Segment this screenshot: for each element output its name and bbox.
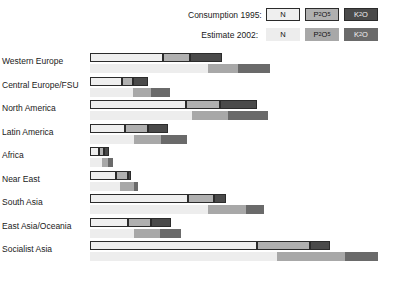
segment-k2o xyxy=(310,241,330,250)
segment-k2o xyxy=(160,229,181,238)
segment-k2o xyxy=(238,64,270,73)
bar-consumption-1995[interactable] xyxy=(90,147,109,156)
bar-estimate-2002[interactable] xyxy=(90,64,270,73)
bar-consumption-1995[interactable] xyxy=(90,124,168,133)
chart-row: Near East xyxy=(0,170,393,194)
segment-n xyxy=(90,205,208,214)
segment-n xyxy=(90,124,125,133)
bar-estimate-2002[interactable] xyxy=(90,252,378,261)
segment-p2o5 xyxy=(208,205,246,214)
category-label-western-europe: Western Europe xyxy=(2,56,88,66)
segment-k2o xyxy=(214,194,226,203)
segment-k2o xyxy=(345,252,378,261)
segment-n xyxy=(90,252,277,261)
chart-row: Latin America xyxy=(0,123,393,147)
segment-k2o xyxy=(246,205,264,214)
legend-row-label: Estimate 2002: xyxy=(188,30,266,40)
segment-p2o5 xyxy=(122,77,133,86)
segment-p2o5 xyxy=(192,111,228,120)
chart-row: East Asia/Oceania xyxy=(0,217,393,241)
chart-row: Western Europe xyxy=(0,52,393,76)
segment-n xyxy=(90,218,128,227)
bar-group xyxy=(90,99,393,123)
bar-consumption-1995[interactable] xyxy=(90,171,131,180)
segment-n xyxy=(90,135,134,144)
category-label-africa: Africa xyxy=(2,150,88,160)
segment-p2o5 xyxy=(125,124,148,133)
segment-n xyxy=(90,182,120,191)
segment-p2o5 xyxy=(257,241,310,250)
segment-p2o5 xyxy=(133,88,151,97)
fertilizer-consumption-chart: Consumption 1995:NP2O5K2OEstimate 2002:N… xyxy=(0,0,393,291)
category-label-south-asia: South Asia xyxy=(2,197,88,207)
segment-k2o xyxy=(148,124,168,133)
legend-swatch-n[interactable]: N xyxy=(266,8,300,21)
segment-k2o xyxy=(108,158,113,167)
bar-consumption-1995[interactable] xyxy=(90,77,148,86)
segment-n xyxy=(90,171,116,180)
bar-group xyxy=(90,52,393,76)
legend-swatch-n[interactable]: N xyxy=(266,28,300,41)
bar-consumption-1995[interactable] xyxy=(90,100,257,109)
bar-estimate-2002[interactable] xyxy=(90,182,138,191)
bar-estimate-2002[interactable] xyxy=(90,88,170,97)
bar-consumption-1995[interactable] xyxy=(90,194,226,203)
category-label-central-europe-fsu: Central Europe/FSU xyxy=(2,80,88,90)
segment-p2o5 xyxy=(163,53,190,62)
segment-p2o5 xyxy=(134,229,160,238)
legend-swatch-group: NP2O5K2O xyxy=(266,8,378,21)
chart-row: Africa xyxy=(0,146,393,170)
bar-estimate-2002[interactable] xyxy=(90,135,187,144)
category-label-north-america: North America xyxy=(2,103,88,113)
segment-p2o5 xyxy=(120,182,134,191)
chart-plot-area: Western EuropeCentral Europe/FSUNorth Am… xyxy=(0,52,393,288)
legend-row-label: Consumption 1995: xyxy=(188,10,266,20)
segment-n xyxy=(90,88,133,97)
bar-group xyxy=(90,193,393,217)
bar-estimate-2002[interactable] xyxy=(90,158,113,167)
segment-n xyxy=(90,100,186,109)
legend-row: Estimate 2002:NP2O5K2O xyxy=(188,26,388,43)
segment-n xyxy=(90,194,188,203)
bar-group xyxy=(90,170,393,194)
segment-n xyxy=(90,241,257,250)
segment-n xyxy=(90,147,99,156)
legend-swatch-p[interactable]: P2O5 xyxy=(305,28,339,41)
bar-estimate-2002[interactable] xyxy=(90,205,264,214)
category-label-socialist-asia: Socialist Asia xyxy=(2,244,88,254)
segment-k2o xyxy=(133,77,148,86)
segment-k2o xyxy=(128,171,131,180)
segment-p2o5 xyxy=(208,64,238,73)
segment-k2o xyxy=(134,182,138,191)
legend-swatch-k[interactable]: K2O xyxy=(344,28,378,41)
segment-k2o xyxy=(161,135,187,144)
bar-consumption-1995[interactable] xyxy=(90,241,330,250)
segment-p2o5 xyxy=(188,194,214,203)
segment-n xyxy=(90,111,192,120)
segment-k2o xyxy=(190,53,222,62)
segment-p2o5 xyxy=(134,135,161,144)
bar-group xyxy=(90,146,393,170)
legend-swatch-k[interactable]: K2O xyxy=(344,8,378,21)
bar-estimate-2002[interactable] xyxy=(90,229,181,238)
segment-k2o xyxy=(220,100,257,109)
legend-swatch-p[interactable]: P2O5 xyxy=(305,8,339,21)
segment-p2o5 xyxy=(128,218,151,227)
bar-estimate-2002[interactable] xyxy=(90,111,268,120)
category-label-east-asia-oceania: East Asia/Oceania xyxy=(2,221,88,231)
category-label-near-east: Near East xyxy=(2,174,88,184)
bar-group xyxy=(90,240,393,264)
bar-group xyxy=(90,123,393,147)
segment-k2o xyxy=(104,147,109,156)
bar-consumption-1995[interactable] xyxy=(90,218,171,227)
segment-n xyxy=(90,64,208,73)
segment-n xyxy=(90,53,163,62)
chart-row: South Asia xyxy=(0,193,393,217)
bar-consumption-1995[interactable] xyxy=(90,53,222,62)
bar-group xyxy=(90,76,393,100)
chart-row: Central Europe/FSU xyxy=(0,76,393,100)
legend-swatch-group: NP2O5K2O xyxy=(266,28,378,41)
segment-n xyxy=(90,229,134,238)
segment-p2o5 xyxy=(116,171,128,180)
segment-n xyxy=(90,77,122,86)
